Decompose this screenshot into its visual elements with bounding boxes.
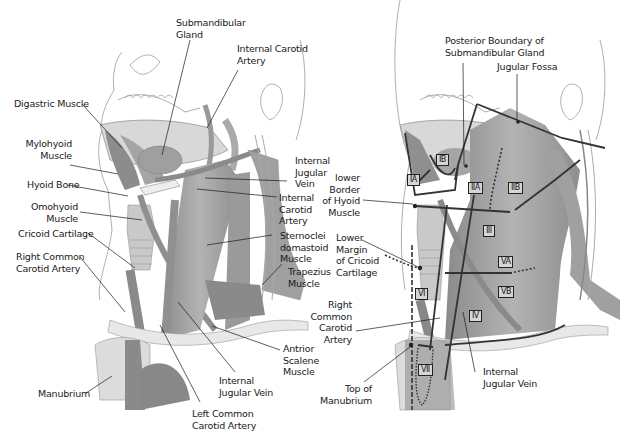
label-lower-margin-cricoid: Lower Margin of Cricoid Cartilage (336, 232, 379, 278)
label-anterior-scalene-muscle: Antrior Scalene Muscle (283, 343, 319, 378)
label-trapezius-muscle: Trapezius Muscle (288, 266, 331, 289)
label-text: Omohyoid Muscle (31, 201, 78, 224)
level-badge-vb: VB (498, 286, 514, 298)
label-text: Mylohyoid Muscle (25, 138, 72, 161)
label-text: Internal Jugular Vein (483, 366, 537, 389)
label-text: Submandibular Gland (176, 17, 246, 40)
label-text: Cricoid Cartilage (18, 228, 94, 239)
neck-anatomy-diagram: Submandibular Gland Internal Carotid Art… (0, 0, 620, 445)
label-text: Top of Manubrium (320, 383, 372, 406)
label-text: lower Border of Hyoid Muscle (322, 172, 360, 218)
level-badge-iib: IIB (508, 182, 523, 194)
label-text: Sternoclei domastoid Muscle (280, 230, 328, 264)
label-text: Antrior Scalene Muscle (283, 343, 319, 377)
label-right-common-carotid-artery-r: Right Common Carotid Artery (306, 299, 352, 345)
label-right-common-carotid-artery: Right Common Carotid Artery (16, 251, 80, 274)
label-sternocleidomastoid-muscle: Sternoclei domastoid Muscle (280, 230, 328, 265)
label-mylohyoid-muscle: Mylohyoid Muscle (20, 138, 72, 161)
level-badge-ia: IA (407, 174, 420, 186)
label-internal-carotid-artery-mid: Internal Carotid Artery (279, 192, 314, 227)
label-text: Posterior Boundary of Submandibular Glan… (445, 35, 544, 58)
label-internal-jugular-vein-r: Internal Jugular Vein (483, 366, 537, 389)
right-neck-illustration (356, 0, 620, 410)
label-text: Internal Carotid Artery (237, 43, 308, 66)
label-text: Jugular Fossa (497, 61, 557, 72)
label-text: Right Common Carotid Artery (310, 299, 352, 345)
label-jugular-fossa: Jugular Fossa (497, 61, 557, 73)
label-omohyoid-muscle: Omohyoid Muscle (20, 201, 78, 224)
label-submandibular-gland: Submandibular Gland (176, 17, 246, 40)
left-neck-illustration (68, 40, 308, 410)
label-text: Internal Jugular Vein (219, 375, 273, 398)
label-manubrium: Manubrium (38, 388, 90, 400)
label-top-of-manubrium: Top of Manubrium (320, 383, 372, 406)
label-text: Digastric Muscle (14, 98, 89, 109)
label-text: Internal Carotid Artery (279, 192, 314, 226)
level-badge-vi: VI (415, 288, 428, 300)
level-badge-iia: IIA (468, 182, 483, 194)
level-badge-iii: III (483, 225, 495, 237)
level-badge-va: VA (498, 256, 513, 268)
level-badge-iv: IV (469, 310, 482, 322)
label-text: Manubrium (38, 388, 90, 399)
label-posterior-boundary-submandibular-gland: Posterior Boundary of Submandibular Glan… (445, 35, 544, 58)
label-left-common-carotid-artery: Left Common Carotid Artery (192, 408, 256, 431)
label-digastric-muscle: Digastric Muscle (14, 98, 89, 110)
label-text: Left Common Carotid Artery (192, 408, 256, 431)
label-cricoid-cartilage: Cricoid Cartilage (18, 228, 94, 240)
label-internal-carotid-artery-top: Internal Carotid Artery (237, 43, 308, 66)
label-hyoid-bone: Hyoid Bone (27, 179, 79, 191)
label-text: Lower Margin of Cricoid Cartilage (336, 232, 379, 278)
level-badge-vii: VII (418, 364, 433, 376)
label-text: Hyoid Bone (27, 179, 79, 190)
label-internal-jugular-vein-lower: Internal Jugular Vein (219, 375, 273, 398)
label-text: Right Common Carotid Artery (16, 251, 84, 274)
level-badge-ib: IB (436, 154, 449, 166)
label-text: Trapezius Muscle (288, 266, 331, 289)
label-lower-border-hyoid: lower Border of Hyoid Muscle (318, 172, 360, 218)
